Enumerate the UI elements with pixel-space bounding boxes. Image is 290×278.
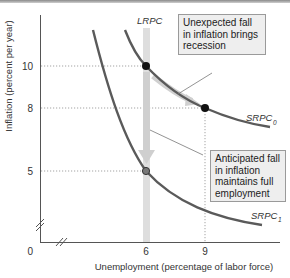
srpc1-label: SRPC <box>251 210 278 221</box>
y-tick-10: 10 <box>22 61 34 72</box>
point-6-10 <box>142 62 150 70</box>
srpc0-subscript: 0 <box>273 119 277 126</box>
srpc0-label: SRPC <box>246 112 273 123</box>
lrpc-label: LRPC <box>137 15 162 26</box>
origin-label: 0 <box>27 246 33 257</box>
anticipated-arrow <box>138 72 155 164</box>
y-tick-5: 5 <box>27 166 33 177</box>
anticipated-fall-note: Anticipated fall in inflation maintains … <box>210 150 286 202</box>
x-axis-title: Unemployment (percentage of labor force) <box>95 261 273 272</box>
x-tick-9: 9 <box>202 246 208 257</box>
y-axis-title: Inflation (percent per year) <box>3 20 14 131</box>
srpc1-subscript: 1 <box>278 216 282 223</box>
x-tick-6: 6 <box>143 246 149 257</box>
point-6-5 <box>142 167 149 174</box>
leader-lines <box>150 73 212 155</box>
unexpected-fall-note: Unexpected fall in inflation brings rece… <box>178 14 266 55</box>
point-9-8 <box>201 104 209 112</box>
y-tick-8: 8 <box>27 103 33 114</box>
